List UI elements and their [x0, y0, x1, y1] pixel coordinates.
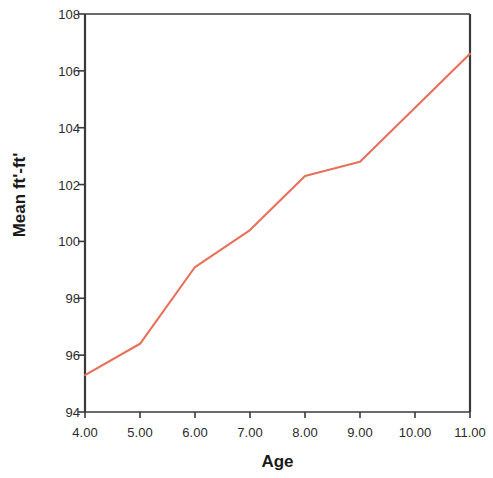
- axes-frame: [85, 14, 470, 412]
- y-axis-tick-label: 98: [38, 291, 80, 306]
- y-axis-tick-label: 96: [38, 348, 80, 363]
- y-axis-tick-label: 94: [38, 405, 80, 420]
- x-axis-tick-label: 11.00: [440, 425, 493, 440]
- y-axis-tick-label: 102: [38, 177, 80, 192]
- x-axis-ticks: [85, 412, 470, 418]
- x-axis-tick-label: 10.00: [385, 425, 445, 440]
- x-axis-tick-label: 6.00: [165, 425, 225, 440]
- x-axis-title: Age: [85, 452, 470, 472]
- data-line-series: [85, 54, 470, 375]
- x-axis-tick-label: 7.00: [220, 425, 280, 440]
- y-axis-tick-label: 100: [38, 234, 80, 249]
- y-axis-tick-label: 106: [38, 63, 80, 78]
- y-axis-title: Mean ft'-ft': [10, 85, 30, 305]
- x-axis-tick-label: 5.00: [110, 425, 170, 440]
- x-axis-tick-label: 8.00: [275, 425, 335, 440]
- x-axis-tick-labels: 4.005.006.007.008.009.0010.0011.00: [0, 425, 493, 449]
- y-axis-tick-label: 108: [38, 7, 80, 22]
- y-axis-tick-label: 104: [38, 120, 80, 135]
- x-axis-tick-label: 9.00: [330, 425, 390, 440]
- chart-figure: Mean ft'-ft' Age 949698100102104106108 4…: [0, 0, 493, 478]
- y-axis-tick-labels: 949698100102104106108: [36, 0, 80, 478]
- x-axis-tick-label: 4.00: [55, 425, 115, 440]
